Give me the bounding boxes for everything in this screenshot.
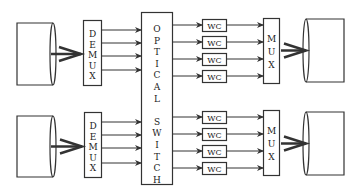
wc-label: WC xyxy=(207,131,221,140)
mux-label-letter: M xyxy=(267,126,276,136)
demux-label-letter: U xyxy=(89,153,97,163)
optical-switch-block: OPTICALSWITCH xyxy=(142,13,173,185)
mux-label-letter: U xyxy=(268,139,276,149)
optical-switch-diagram: OPTICALSWITCHDEMUXWCWCWCWCMUXDEMUXWCWCWC… xyxy=(0,0,358,191)
input-fiber-2 xyxy=(17,116,56,177)
channel-group-2: DEMUXWCWCWCWCMUX xyxy=(85,111,280,178)
output-fiber-2 xyxy=(303,112,344,175)
demux-label-letter: D xyxy=(89,121,96,131)
mux-label-letter: U xyxy=(268,47,276,57)
switch-label-letter: O xyxy=(153,24,160,34)
demux-label-letter: M xyxy=(88,50,97,60)
demux-label-letter: X xyxy=(89,71,96,81)
output-arrow-1 xyxy=(281,44,306,58)
demux-label-letter: D xyxy=(89,29,96,39)
mux-2: MUX xyxy=(264,111,280,176)
mux-1: MUX xyxy=(264,19,280,84)
wc-label: WC xyxy=(207,165,221,174)
wavelength-converter: WC xyxy=(203,163,227,175)
wc-label: WC xyxy=(207,148,221,157)
switch-label-letter: T xyxy=(154,47,160,57)
demux-label-letter: E xyxy=(89,40,96,50)
switch-label-letter: P xyxy=(154,36,160,46)
switch-label-letter: C xyxy=(154,70,161,80)
demux-2: DEMUX xyxy=(85,113,102,178)
wavelength-converter: WC xyxy=(203,129,227,141)
switch-label-letter: L xyxy=(154,94,160,104)
switch-label-letter: S xyxy=(154,117,160,127)
switch-label-letter: C xyxy=(154,163,161,173)
wc-label: WC xyxy=(207,56,221,65)
demux-1: DEMUX xyxy=(84,21,102,86)
wavelength-converter: WC xyxy=(203,20,227,32)
wc-label: WC xyxy=(207,114,221,123)
switch-label-letter: H xyxy=(153,175,161,185)
wavelength-converter: WC xyxy=(203,71,227,83)
wc-label: WC xyxy=(207,22,221,31)
output-arrow-2 xyxy=(281,137,306,151)
switch-label-letter: I xyxy=(155,140,159,150)
switch-label-letter: I xyxy=(155,59,159,69)
wc-label: WC xyxy=(207,39,221,48)
wavelength-converter: WC xyxy=(203,146,227,158)
mux-label-letter: M xyxy=(267,34,276,44)
switch-label-letter: W xyxy=(152,128,162,138)
input-fiber-1 xyxy=(17,23,56,85)
demux-label-letter: U xyxy=(89,61,97,71)
channel-group-1: DEMUXWCWCWCWCMUX xyxy=(84,19,280,86)
demux-label-letter: E xyxy=(90,132,97,142)
mux-label-letter: X xyxy=(268,60,275,70)
output-fiber-1 xyxy=(303,19,344,82)
demux-label-letter: X xyxy=(90,163,97,173)
demux-label-letter: M xyxy=(88,142,97,152)
wavelength-converter: WC xyxy=(203,37,227,49)
wavelength-converter: WC xyxy=(203,112,227,124)
wavelength-converter: WC xyxy=(203,54,227,66)
switch-label-letter: T xyxy=(154,152,160,162)
wc-label: WC xyxy=(207,73,221,82)
switch-label-letter: A xyxy=(153,82,161,92)
mux-label-letter: X xyxy=(268,152,275,162)
